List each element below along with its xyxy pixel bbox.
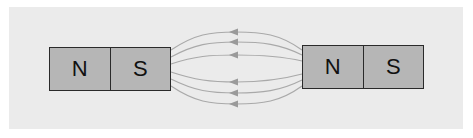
arrow-left-icon <box>229 101 238 108</box>
right-magnet-south-pole: S <box>363 46 424 88</box>
left-magnet-south-pole: S <box>110 48 171 90</box>
right-magnet-north-pole: N <box>303 46 363 88</box>
right-magnet: N S <box>302 45 424 89</box>
arrow-left-icon <box>229 52 238 59</box>
arrow-left-icon <box>229 39 238 46</box>
arrow-left-icon <box>229 90 238 97</box>
left-magnet-north-pole: N <box>50 48 110 90</box>
arrow-left-icon <box>229 29 238 36</box>
left-magnet: N S <box>49 47 171 91</box>
arrow-left-icon <box>229 79 238 86</box>
